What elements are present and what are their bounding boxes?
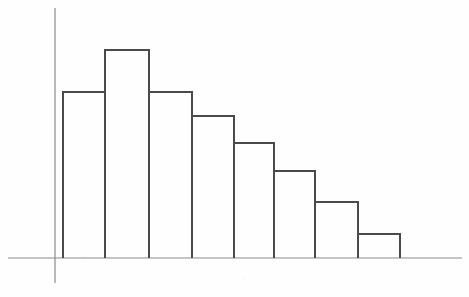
histogram-figure (0, 0, 469, 297)
bar-7 (315, 202, 358, 258)
bar-2 (105, 50, 149, 258)
bar-5 (234, 143, 274, 258)
bar-3 (149, 92, 192, 258)
bar-1 (63, 92, 105, 258)
bar-6 (274, 171, 315, 258)
bars-group (63, 50, 400, 258)
bar-8 (358, 234, 400, 258)
bar-4 (192, 116, 234, 258)
histogram-canvas (0, 0, 469, 297)
